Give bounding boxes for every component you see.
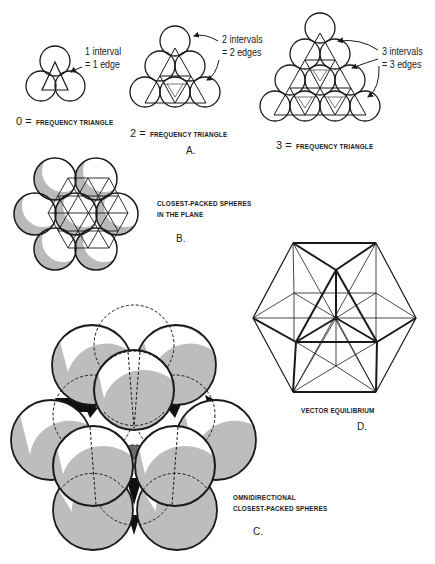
caption-frequency-3-eq: 3 =	[276, 139, 292, 151]
panel-letter-b: B.	[176, 234, 185, 244]
interval-note-3-line2: = 3 edges	[382, 59, 421, 70]
interval-note-2-line1: 2 intervals	[222, 34, 263, 45]
interval-arrows-2	[194, 35, 219, 80]
frequency-triangle-2	[130, 26, 220, 107]
interval-note-3-line1: 3 intervals	[382, 46, 423, 57]
caption-frequency-2: 2 = FREQUENCY TRIANGLE	[130, 124, 241, 140]
caption-frequency-3-text: FREQUENCY TRIANGLE	[296, 143, 373, 151]
caption-vector-equilibrium: VECTOR EQUILIBRIUM	[301, 407, 374, 415]
caption-frequency-0-eq: 0 =	[16, 115, 32, 127]
interval-arrows-3	[338, 40, 379, 97]
caption-frequency-0: 0 = FREQUENCY TRIANGLE	[16, 112, 127, 128]
caption-omni-line2: CLOSEST-PACKED SPHERES	[233, 505, 327, 513]
caption-planar-line2: IN THE PLANE	[157, 211, 203, 219]
caption-frequency-2-text: FREQUENCY TRIANGLE	[150, 131, 227, 139]
caption-omni-line1: OMNIDIRECTIONAL	[233, 494, 296, 502]
frequency-triangle-0	[26, 46, 85, 101]
interval-note-1-line1: 1 interval	[85, 46, 121, 57]
interval-arrow-1	[71, 67, 82, 72]
diagram-canvas	[0, 0, 435, 564]
caption-frequency-0-text: FREQUENCY TRIANGLE	[36, 119, 113, 127]
interval-note-1-line2: = 1 edge	[85, 59, 120, 70]
panel-letter-a: A.	[186, 146, 195, 156]
planar-sphere-packing	[14, 150, 146, 270]
caption-frequency-3: 3 = FREQUENCY TRIANGLE	[276, 136, 387, 152]
vector-equilibrium	[253, 243, 416, 392]
interval-note-2-line2: = 2 edges	[222, 47, 261, 58]
frequency-triangle-3	[260, 13, 380, 121]
caption-planar-line1: CLOSEST-PACKED SPHERES	[157, 200, 251, 208]
panel-letter-c: C.	[253, 527, 263, 537]
omnidirectional-sphere-packing	[11, 305, 256, 550]
caption-frequency-2-eq: 2 =	[130, 127, 146, 139]
panel-letter-d: D.	[357, 422, 367, 432]
